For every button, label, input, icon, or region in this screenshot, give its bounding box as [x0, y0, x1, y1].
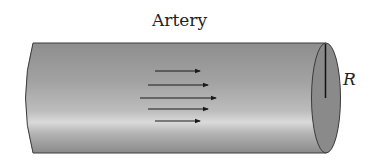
- artery-title: Artery: [152, 10, 207, 30]
- radius-label: R: [343, 69, 356, 89]
- artery-diagram: Artery R: [0, 0, 382, 161]
